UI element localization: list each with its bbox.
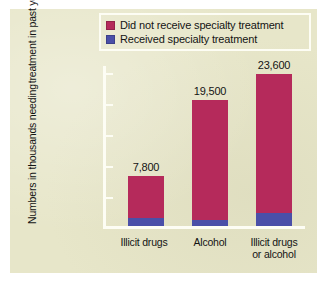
y-axis-spine xyxy=(103,66,106,229)
x-axis-spine xyxy=(103,226,305,229)
bar-segment-received-alcohol xyxy=(192,220,228,226)
bar-segment-received-illicit-drugs xyxy=(128,218,164,226)
chart-legend: Did not receive specialty treatment Rece… xyxy=(99,13,311,51)
bar-segment-received-illicit-drugs-or-alcohol xyxy=(256,213,292,226)
legend-item-did-not-receive: Did not receive specialty treatment xyxy=(106,18,305,32)
bar-value-illicit-drugs: 7,800 xyxy=(133,161,160,173)
legend-label-received: Received specialty treatment xyxy=(120,32,257,46)
legend-label-did-not-receive: Did not receive specialty treatment xyxy=(120,18,284,32)
bar-stack-illicit-drugs-or-alcohol xyxy=(256,74,292,226)
bar-group-alcohol[interactable]: 19,500 xyxy=(192,100,228,226)
bar-segment-did-not-receive-illicit-drugs-or-alcohol xyxy=(256,74,292,213)
y-tick-mark-15000 xyxy=(106,135,113,137)
y-axis-title-line-2: treatment in past year xyxy=(25,0,40,83)
legend-swatch-received xyxy=(106,35,115,44)
bar-group-illicit-drugs[interactable]: 7,800 xyxy=(128,176,164,226)
bar-segment-did-not-receive-illicit-drugs xyxy=(128,176,164,218)
bar-group-illicit-drugs-or-alcohol[interactable]: 23,600 xyxy=(256,74,292,226)
bar-value-illicit-drugs-or-alcohol: 23,600 xyxy=(258,59,290,71)
x-category-label-illicit-drugs-or-alcohol-line-1: Illicit drugs xyxy=(228,236,320,248)
y-tick-mark-5000 xyxy=(106,197,113,199)
bar-stack-illicit-drugs xyxy=(128,176,164,226)
plot-area: 7,800 19,500 23,600 xyxy=(103,66,305,229)
legend-swatch-did-not-receive xyxy=(106,21,115,30)
x-category-label-illicit-drugs-or-alcohol-line-2: or alcohol xyxy=(228,248,320,260)
y-axis-title: Numbers in thousands needing treatment i… xyxy=(15,25,49,185)
bar-stack-alcohol xyxy=(192,100,228,226)
bar-segment-did-not-receive-alcohol xyxy=(192,100,228,220)
bar-value-alcohol: 19,500 xyxy=(194,85,226,97)
chart-figure: Did not receive specialty treatment Rece… xyxy=(0,0,323,282)
y-axis-title-line-1: Numbers in thousands needing xyxy=(25,84,40,224)
y-tick-mark-25000 xyxy=(106,73,113,75)
x-category-label-illicit-drugs-or-alcohol: Illicit drugs or alcohol xyxy=(228,236,320,260)
y-tick-mark-20000 xyxy=(106,104,113,106)
y-tick-mark-10000 xyxy=(106,166,113,168)
legend-item-received: Received specialty treatment xyxy=(106,32,305,46)
